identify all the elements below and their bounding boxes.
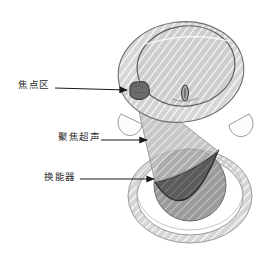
- label-transducer: 换能器: [44, 171, 76, 182]
- label-focused-ultrasound: 聚焦超声: [58, 131, 100, 142]
- ultrasound-diagram: [0, 0, 271, 258]
- label-focal-zone: 焦点区: [18, 79, 50, 90]
- arrow-focal-zone: [55, 88, 127, 90]
- focal-zone-blob: [130, 82, 149, 100]
- ear-left-shape: [118, 114, 142, 135]
- figure-root: 焦点区 聚焦超声 换能器: [0, 0, 271, 258]
- ear-right-shape: [229, 114, 253, 137]
